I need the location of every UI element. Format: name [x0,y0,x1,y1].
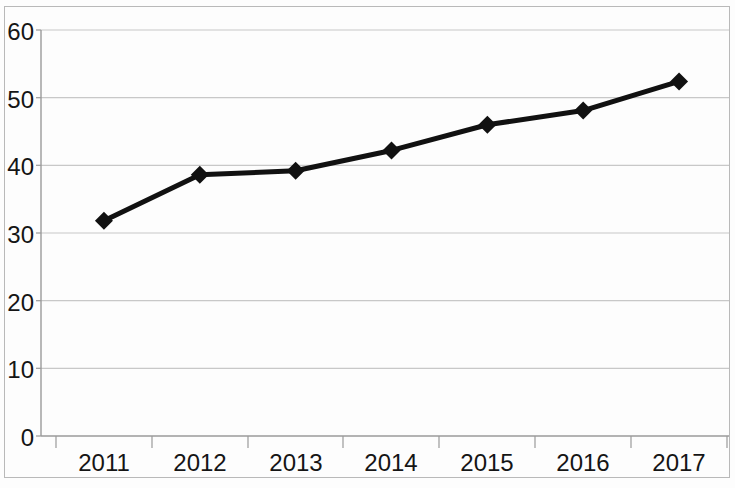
x-tick-label-2012: 2012 [152,449,248,477]
data-point-2013 [287,162,305,180]
y-tick-label-60: 60 [0,18,34,46]
data-point-2012 [191,166,209,184]
line-chart: 60 50 40 30 20 10 0 2011 2012 2013 2014 … [0,0,735,488]
y-tick-label-30: 30 [0,221,34,249]
x-tick-label-2015: 2015 [439,449,535,477]
x-tick-label-2014: 2014 [343,449,439,477]
y-tick-label-40: 40 [0,153,34,181]
data-point-2011 [95,212,113,230]
x-tick-label-2011: 2011 [56,449,152,477]
data-point-2016 [574,102,592,120]
y-tick-label-20: 20 [0,289,34,317]
x-tick-label-2013: 2013 [248,449,344,477]
y-tick-label-0: 0 [0,424,34,452]
data-point-2015 [478,116,496,134]
x-tick-marks [56,436,727,448]
y-tick-marks [36,30,41,436]
plot-area [0,0,735,488]
data-point-2017 [670,72,688,90]
series-markers [95,72,688,229]
y-tick-label-50: 50 [0,86,34,114]
x-tick-label-2016: 2016 [535,449,631,477]
x-tick-label-2017: 2017 [631,449,727,477]
y-tick-label-10: 10 [0,356,34,384]
data-point-2014 [383,141,401,159]
